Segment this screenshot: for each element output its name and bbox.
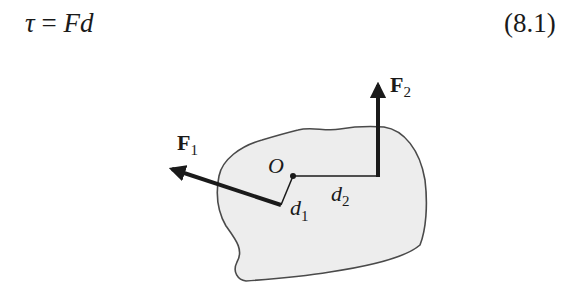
force-f2-letter: F — [390, 72, 403, 97]
force-f2-subscript: 2 — [403, 84, 411, 100]
force-f1-letter: F — [177, 130, 190, 155]
distance-d1-subscript: 1 — [301, 208, 309, 224]
torque-diagram: O F1 F2 d1 d2 — [0, 0, 587, 282]
origin-point — [290, 173, 296, 179]
distance-d2-subscript: 2 — [342, 193, 350, 209]
origin-label: O — [268, 153, 284, 178]
rigid-body-shape — [217, 127, 426, 281]
force-f1-subscript: 1 — [190, 142, 198, 158]
force-f2-label: F2 — [390, 72, 411, 100]
force-f1-label: F1 — [177, 130, 198, 158]
